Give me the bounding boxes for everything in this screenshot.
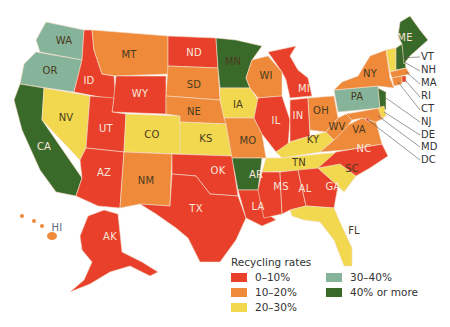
legend-swatch-green xyxy=(326,288,342,297)
state-ri xyxy=(402,76,406,82)
legend-label: 10–20% xyxy=(255,286,297,298)
state-ak xyxy=(70,210,158,292)
label-wy: WY xyxy=(132,88,148,99)
legend-item-30-40: 30–40% xyxy=(326,271,421,283)
label-me: ME xyxy=(397,32,412,43)
label-sc: SC xyxy=(345,163,359,174)
legend-swatch-yellow xyxy=(231,303,247,312)
label-nd: ND xyxy=(186,47,202,58)
label-hi: HI xyxy=(52,222,63,233)
legend-label: 0–10% xyxy=(255,271,290,283)
label-ne: NE xyxy=(187,106,201,117)
legend-title: Recycling rates xyxy=(231,256,421,268)
label-co: CO xyxy=(144,129,159,140)
label-ri: RI xyxy=(421,90,431,101)
label-nm: NM xyxy=(138,175,155,186)
label-mt: MT xyxy=(121,49,136,60)
label-ar: AR xyxy=(249,169,263,180)
label-dc: DC xyxy=(421,154,436,165)
legend: Recycling rates 0–10% 30–40% 10–20% 40% … xyxy=(231,256,421,313)
legend-label: 30–40% xyxy=(350,271,392,283)
label-sd: SD xyxy=(187,79,201,90)
legend-label: 20–30% xyxy=(255,301,297,313)
label-wi: WI xyxy=(259,70,272,81)
legend-item-20-30: 20–30% xyxy=(231,301,326,313)
legend-label: 40% or more xyxy=(350,286,418,298)
label-ak: AK xyxy=(103,231,117,242)
state-az xyxy=(76,148,124,208)
label-az: AZ xyxy=(97,167,111,178)
label-nv: NV xyxy=(59,112,74,123)
label-ma: MA xyxy=(421,77,436,88)
label-ca: CA xyxy=(37,141,51,152)
label-nc: NC xyxy=(357,143,372,154)
label-or: OR xyxy=(42,65,57,76)
label-il: IL xyxy=(272,115,281,126)
label-va: VA xyxy=(352,124,365,135)
legend-swatch-orange xyxy=(231,288,247,297)
label-ms: MS xyxy=(273,181,288,192)
label-wa: WA xyxy=(56,35,73,46)
label-in: IN xyxy=(293,110,304,121)
label-al: AL xyxy=(299,183,312,194)
label-oh: OH xyxy=(313,105,329,116)
label-mn: MN xyxy=(225,56,242,67)
label-id: ID xyxy=(83,75,94,86)
label-ut: UT xyxy=(99,123,113,134)
label-ga: GA xyxy=(326,181,341,192)
label-tn: TN xyxy=(292,157,306,168)
label-de: DE xyxy=(421,129,435,140)
label-md: MD xyxy=(421,141,437,152)
label-ok: OK xyxy=(211,165,226,176)
legend-item-40-plus: 40% or more xyxy=(326,286,421,298)
label-ny: NY xyxy=(363,68,377,79)
legend-swatch-red xyxy=(231,273,247,282)
label-ks: KS xyxy=(199,133,212,144)
label-pa: PA xyxy=(351,91,364,102)
label-vt: VT xyxy=(421,51,434,62)
label-tx: TX xyxy=(189,203,202,214)
legend-item-10-20: 10–20% xyxy=(231,286,326,298)
label-ct: CT xyxy=(421,103,434,114)
state-ct xyxy=(392,76,402,86)
label-mo: MO xyxy=(240,135,257,146)
label-nh: NH xyxy=(421,64,436,75)
label-nj: NJ xyxy=(421,116,431,127)
label-la: LA xyxy=(251,201,264,212)
legend-swatch-teal xyxy=(326,273,342,282)
label-ia: IA xyxy=(233,99,243,110)
label-wv: WV xyxy=(328,121,345,132)
legend-item-0-10: 0–10% xyxy=(231,271,326,283)
label-mi: MI xyxy=(298,83,310,94)
label-ky: KY xyxy=(307,134,320,145)
label-fl: FL xyxy=(348,225,360,236)
